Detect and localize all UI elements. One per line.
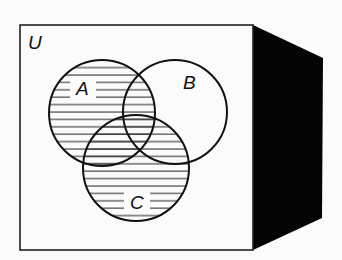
set-b-label: B — [183, 72, 196, 93]
universe-label: U — [28, 32, 42, 53]
set-c-label: C — [130, 192, 144, 213]
box-side-face — [253, 25, 323, 250]
set-a-label: A — [75, 78, 89, 99]
venn-diagram: U A B C — [0, 0, 342, 260]
